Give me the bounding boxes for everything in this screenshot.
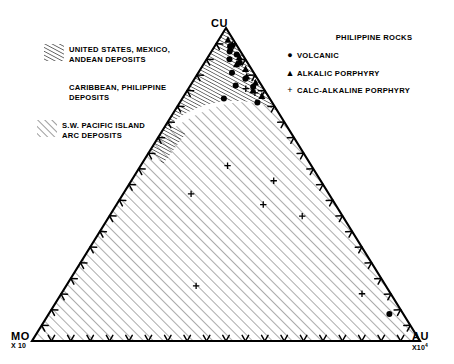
legend-item-sw-pacific-island-arc: S.W. PACIFIC ISLAND ARC DEPOSITS (37, 120, 227, 140)
legend-item-caribbean-philippine: CARIBBEAN, PHILIPPINE DEPOSITS (69, 82, 239, 102)
apex-au-multiplier: X104 (412, 342, 429, 351)
apex-label-au: AU X104 (412, 330, 429, 351)
apex-mo-multiplier: X 10 (11, 342, 30, 349)
philippine-rocks-legend: PHILIPPINE ROCKS ● VOLCANIC ▲ ALKALIC PO… (283, 33, 451, 104)
ternary-diagram-figure: CU MO X 10 AU X104 UNITED STATES, MEXICO… (0, 0, 454, 364)
apex-label-mo: MO X 10 (11, 330, 30, 349)
legend-item-alkalic-porphyry: ▲ ALKALIC PORPHYRY (283, 69, 451, 78)
apex-au-multiplier-exponent: 4 (425, 342, 428, 348)
data-point-filled-circle (229, 70, 235, 76)
legend-label-volcanic: VOLCANIC (297, 51, 339, 60)
apex-cu-text: CU (211, 17, 228, 29)
apex-label-cu: CU (211, 13, 228, 31)
legend-item-calc-alkaline-porphyry: + CALC-ALKALINE PORPHYRY (283, 86, 451, 95)
plus-icon: + (283, 86, 297, 95)
hatch-swatch-steep-dense-icon (44, 44, 64, 61)
data-point-filled-circle (386, 311, 392, 317)
apex-au-multiplier-base: X10 (412, 344, 425, 351)
apex-mo-text: MO (11, 330, 30, 342)
legend-label-alkalic-porphyry: ALKALIC PORPHYRY (297, 69, 380, 78)
legend-label-us-mexico-andean: UNITED STATES, MEXICO, ANDEAN DEPOSITS (69, 44, 170, 64)
filled-circle-icon: ● (283, 51, 297, 60)
filled-triangle-icon: ▲ (283, 69, 297, 78)
legend-title-philippine-rocks: PHILIPPINE ROCKS (297, 33, 451, 42)
legend-label-sw-pacific-island-arc: S.W. PACIFIC ISLAND ARC DEPOSITS (62, 120, 145, 140)
legend-item-volcanic: ● VOLCANIC (283, 51, 451, 60)
legend-label-calc-alkaline-porphyry: CALC-ALKALINE PORPHYRY (297, 86, 410, 95)
legend-item-us-mexico-andean: UNITED STATES, MEXICO, ANDEAN DEPOSITS (44, 44, 234, 64)
apex-au-text: AU (412, 330, 429, 342)
hatch-swatch-diagonal-open-icon (37, 120, 57, 137)
data-point-filled-circle (254, 99, 260, 105)
legend-label-caribbean-philippine: CARIBBEAN, PHILIPPINE DEPOSITS (69, 82, 166, 102)
